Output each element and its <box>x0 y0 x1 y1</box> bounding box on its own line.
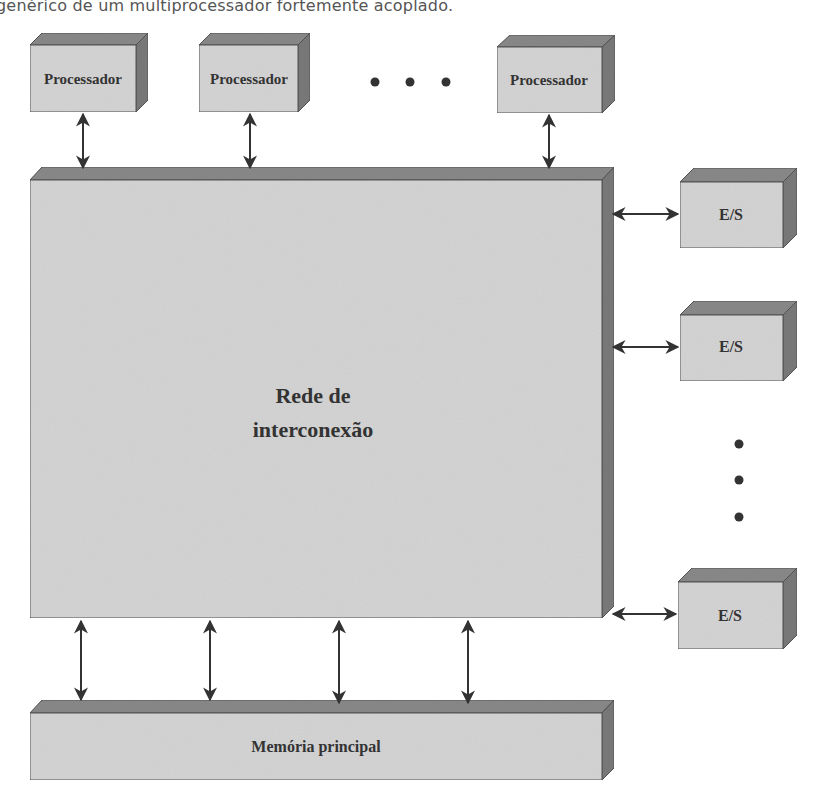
io-label-3: E/S <box>718 607 742 624</box>
processor-label-3: Processador <box>510 72 588 88</box>
interconnect-label-line2: interconexão <box>253 417 374 442</box>
interconnect-label-line1: Rede de <box>275 383 350 408</box>
io-label-1: E/S <box>719 206 743 223</box>
io-links <box>613 214 678 614</box>
processor-label-1: Processador <box>44 71 122 87</box>
io-ellipsis-icon <box>735 440 744 522</box>
multiprocessor-diagram: Processador Processador Processador Rede… <box>0 0 822 805</box>
memory-links <box>81 621 468 703</box>
io-label-2: E/S <box>719 338 743 355</box>
processor-label-2: Processador <box>210 71 288 87</box>
memory-label: Memória principal <box>251 738 381 756</box>
processor-links <box>83 114 549 168</box>
processor-ellipsis-icon <box>371 78 451 87</box>
